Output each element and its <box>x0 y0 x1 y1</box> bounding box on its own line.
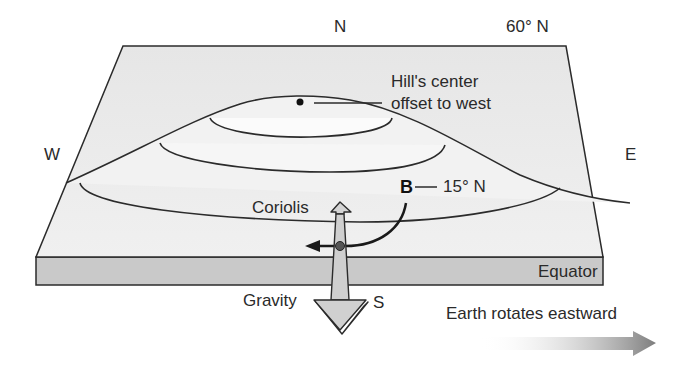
ocean-hill-geostrophic-diagram: N 60° N W E Hill's center offset to west… <box>0 0 695 367</box>
compass-north-label: N <box>334 18 346 35</box>
gravity-label: Gravity <box>243 292 297 309</box>
latitude-15n-label: 15° N <box>443 178 486 195</box>
earth-rotation-label: Earth rotates eastward <box>446 305 617 322</box>
equator-label: Equator <box>538 263 598 280</box>
compass-south-label: S <box>373 294 384 311</box>
hill-center-label-line2: offset to west <box>391 95 491 112</box>
latitude-60n-label: 60° N <box>506 18 549 35</box>
point-b-label: B <box>400 178 413 196</box>
coriolis-label: Coriolis <box>252 199 309 216</box>
compass-west-label: W <box>44 146 60 163</box>
earth-rotation-arrow <box>480 331 656 356</box>
hill-center-label-line1: Hill's center <box>391 73 478 90</box>
ocean-slab-side <box>36 257 603 285</box>
compass-east-label: E <box>625 146 636 163</box>
water-parcel <box>336 242 345 251</box>
